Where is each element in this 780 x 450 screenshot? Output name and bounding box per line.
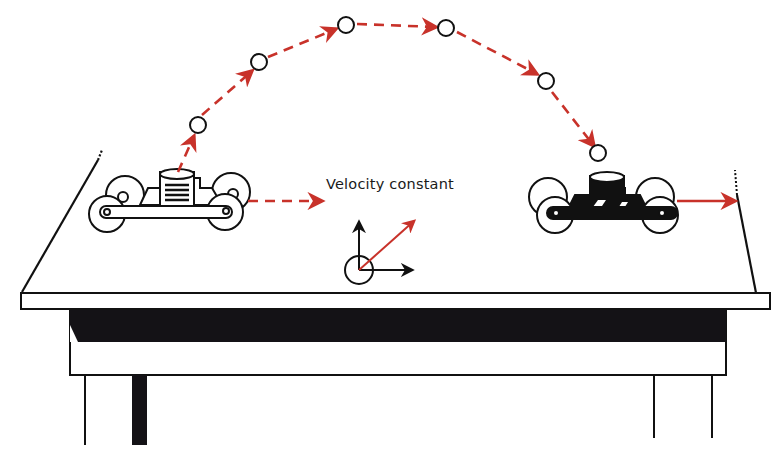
velocity-constant-label: Velocity constant (326, 176, 454, 192)
cart-right (529, 172, 678, 233)
velocity-vector-diagram (345, 221, 414, 284)
projectile-cart-diagram: Velocity constant (0, 0, 780, 450)
balls (190, 17, 606, 161)
ball-trajectory (178, 24, 735, 201)
cart-left (89, 169, 250, 232)
diagram-canvas (0, 0, 780, 450)
